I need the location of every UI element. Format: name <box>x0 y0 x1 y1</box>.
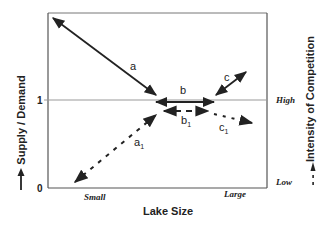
x-tick-large: Large <box>223 189 246 199</box>
y-tick-0: 0 <box>37 183 43 194</box>
y-tick-low: Low <box>275 177 293 187</box>
lake-size-diagram: a b c a1 b1 c1 1 0 Supply / Demand High … <box>0 0 328 226</box>
y-axis-right-title: Intensity of Competition <box>304 36 316 162</box>
dashed-arrow-legend-icon <box>311 162 316 185</box>
label-c: c <box>224 71 230 83</box>
y-tick-1: 1 <box>37 95 43 106</box>
label-b1: b1 <box>181 114 191 128</box>
y-tick-high: High <box>275 95 295 105</box>
arrow-c <box>216 72 246 95</box>
label-b: b <box>180 84 186 96</box>
solid-arrow-legend-icon <box>18 168 25 190</box>
label-a: a <box>130 60 137 72</box>
y-axis-left-title: Supply / Demand <box>15 75 27 164</box>
label-a1: a1 <box>134 136 144 150</box>
label-c1: c1 <box>219 121 229 135</box>
arrow-a <box>53 18 156 95</box>
x-tick-small: Small <box>84 192 106 202</box>
x-axis-title: Lake Size <box>143 205 193 217</box>
